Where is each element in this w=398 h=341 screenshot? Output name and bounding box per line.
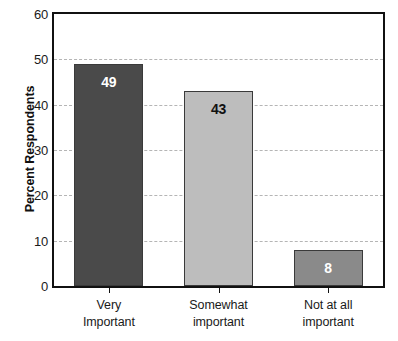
x-axis-tick xyxy=(219,288,220,293)
x-axis-category-line: Not at all xyxy=(273,297,383,314)
plot-inner: 49438 xyxy=(54,14,383,286)
y-axis-tick-label: 10 xyxy=(14,233,48,248)
x-axis-category-label: Somewhatimportant xyxy=(164,297,274,331)
x-axis-category-line: important xyxy=(273,314,383,331)
bar[interactable]: 43 xyxy=(184,91,253,286)
bar-value-label: 49 xyxy=(75,74,142,90)
x-axis-category-label: Not at allimportant xyxy=(273,297,383,331)
bar-group: 8 xyxy=(294,14,363,286)
x-axis-category-line: Somewhat xyxy=(164,297,274,314)
y-axis-tick-label: 50 xyxy=(14,52,48,67)
bar-chart: Percent Respondents 0102030405060 49438 … xyxy=(0,0,398,341)
y-axis-tick-label: 0 xyxy=(14,279,48,294)
y-axis-tick-label: 40 xyxy=(14,97,48,112)
x-axis-category-line: Very xyxy=(54,297,164,314)
bar-value-label: 43 xyxy=(185,101,252,117)
y-axis-tick-label: 60 xyxy=(14,7,48,22)
y-axis-tick-labels: 0102030405060 xyxy=(8,0,48,341)
x-axis-tick xyxy=(328,288,329,293)
x-axis-category-line: Important xyxy=(54,314,164,331)
x-axis-tick xyxy=(109,288,110,293)
x-axis-category-line: important xyxy=(164,314,274,331)
bar[interactable]: 49 xyxy=(74,64,143,286)
bar[interactable]: 8 xyxy=(294,250,363,286)
y-axis-tick-label: 30 xyxy=(14,143,48,158)
y-axis-tick-label: 20 xyxy=(14,188,48,203)
bar-value-label: 8 xyxy=(295,260,362,276)
bar-group: 49 xyxy=(74,14,143,286)
x-axis-category-label: VeryImportant xyxy=(54,297,164,331)
bar-group: 43 xyxy=(184,14,253,286)
plot-area: 49438 xyxy=(52,12,385,288)
